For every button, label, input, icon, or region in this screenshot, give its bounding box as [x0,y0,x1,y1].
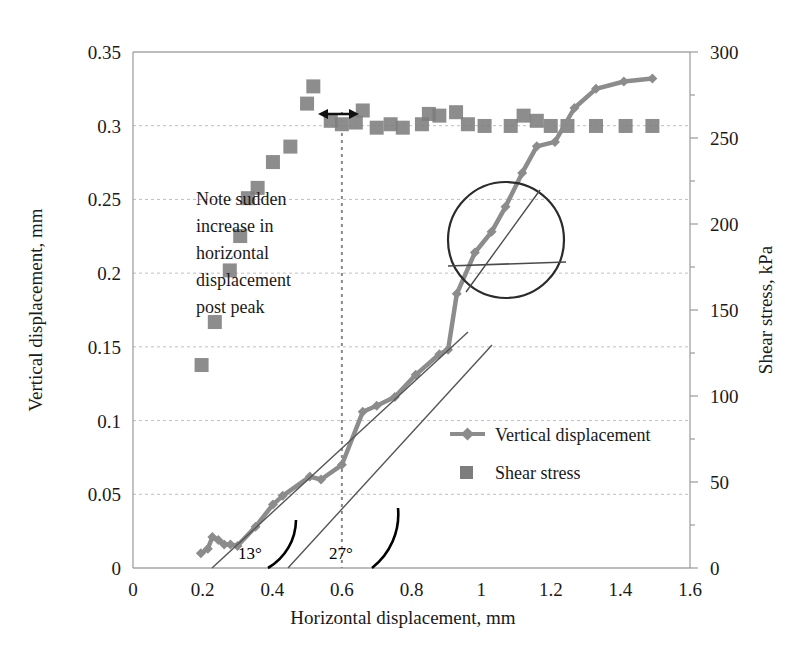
y2-tick-label: 150 [710,300,739,321]
y-tick-label: 0.25 [88,189,121,210]
note-line-3: horizontal [196,243,269,263]
shear-stress-marker [504,119,518,133]
shear-stress-marker [478,119,492,133]
y-tick-label: 0.35 [88,42,121,63]
y-tick-label: 0.2 [97,263,121,284]
note-line-2: increase in [196,216,273,236]
shear-stress-marker [461,117,475,131]
x-tick-label: 1.6 [678,579,702,600]
shear-stress-marker [544,119,558,133]
legend-label-shear-stress: Shear stress [495,463,580,483]
y-tick-label: 0.15 [88,337,121,358]
y-tick-label: 0.3 [97,116,121,137]
legend-label-vertical-displacement: Vertical displacement [495,425,650,445]
legend-marker-shear-stress [460,466,473,479]
shear-stress-marker [517,109,531,123]
shear-stress-marker [432,109,446,123]
y2-tick-label: 300 [710,42,739,63]
shear-stress-marker [619,119,633,133]
x-tick-label: 0.2 [191,579,215,600]
shear-stress-marker [645,119,659,133]
shear-stress-marker [384,117,398,131]
x-tick-label: 1.4 [609,579,633,600]
x-axis-title: Horizontal displacement, mm [290,607,516,628]
shear-stress-marker [195,358,209,372]
y-tick-label: 0.05 [88,484,121,505]
note-line-5: post peak [196,297,264,317]
x-tick-label: 1 [476,579,486,600]
angle-27-label: 27° [329,544,353,563]
chart-figure: 00.050.10.150.20.250.30.35 0501001502002… [0,0,806,659]
shear-test-chart: 00.050.10.150.20.250.30.35 0501001502002… [0,0,806,659]
shear-stress-marker [396,121,410,135]
shear-stress-marker [266,155,280,169]
shear-stress-marker [300,97,314,111]
x-tick-label: 0.8 [400,579,424,600]
shear-stress-marker [356,103,370,117]
y2-tick-label: 0 [710,558,720,579]
shear-stress-marker [530,114,544,128]
y-axis-title: Vertical displacement, mm [25,208,46,411]
angle-13-label: 13° [238,544,262,563]
x-tick-label: 1.2 [539,579,563,600]
y-tick-label: 0 [112,558,122,579]
shear-stress-marker [306,79,320,93]
x-axis-tick-labels: 00.20.40.60.811.21.41.6 [128,579,702,600]
x-tick-label: 0.4 [260,579,284,600]
x-tick-label: 0.6 [330,579,354,600]
x-tick-label: 0 [128,579,138,600]
note-line-4: displacement [196,270,291,290]
y2-tick-label: 100 [710,386,739,407]
y2-tick-label: 50 [710,472,729,493]
shear-stress-marker [589,119,603,133]
shear-stress-marker [283,140,297,154]
shear-stress-marker [449,105,463,119]
y-tick-label: 0.1 [97,411,121,432]
y2-tick-label: 250 [710,128,739,149]
shear-stress-marker [208,315,222,329]
y2-tick-label: 200 [710,214,739,235]
y2-axis-title: Shear stress, kPa [755,245,776,374]
note-line-1: Note sudden [196,189,286,209]
shear-stress-marker [370,121,384,135]
